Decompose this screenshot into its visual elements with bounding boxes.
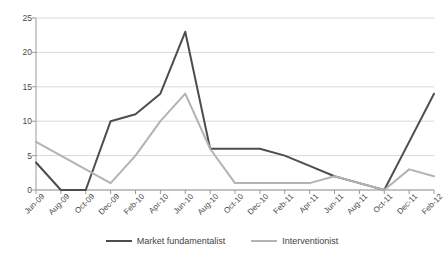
chart-legend: Market fundamentalistInterventionist bbox=[0, 232, 444, 250]
y-tick-label: 25 bbox=[2, 14, 32, 23]
y-tick-label: 15 bbox=[2, 82, 32, 91]
x-tick-label: Apr-10 bbox=[147, 192, 170, 215]
series-line bbox=[36, 94, 434, 190]
x-tick-label: Feb-10 bbox=[122, 192, 146, 216]
legend-item[interactable]: Interventionist bbox=[251, 236, 338, 246]
series-line bbox=[36, 32, 434, 190]
x-tick-label: Aug-10 bbox=[196, 192, 221, 217]
y-axis-labels: 0510152025 bbox=[0, 18, 32, 190]
x-tick-label: Dec-10 bbox=[246, 192, 271, 217]
x-tick-label: Aug-09 bbox=[47, 192, 72, 217]
legend-swatch-light bbox=[251, 240, 277, 242]
legend-label: Market fundamentalist bbox=[137, 236, 226, 246]
x-tick-label: Aug-11 bbox=[346, 192, 370, 216]
y-tick-label: 5 bbox=[2, 151, 32, 160]
legend-swatch-dark bbox=[106, 240, 132, 242]
x-tick-label: Feb-11 bbox=[271, 192, 295, 216]
y-tick-label: 20 bbox=[2, 48, 32, 57]
x-tick-label: Feb-12 bbox=[420, 192, 444, 216]
x-tick-label: Oct-09 bbox=[73, 192, 96, 215]
x-tick-label: Dec-09 bbox=[96, 192, 121, 217]
x-tick-label: Jun-09 bbox=[23, 192, 47, 216]
y-tick-label: 0 bbox=[2, 186, 32, 195]
series-lines bbox=[36, 18, 434, 190]
x-tick-label: Oct-10 bbox=[222, 192, 245, 215]
x-tick-label: Oct-11 bbox=[372, 192, 395, 215]
legend-item[interactable]: Market fundamentalist bbox=[106, 236, 226, 246]
legend-label: Interventionist bbox=[282, 236, 338, 246]
y-tick-label: 10 bbox=[2, 117, 32, 126]
plot-area bbox=[36, 18, 434, 190]
x-tick-label: Apr-11 bbox=[297, 192, 320, 215]
x-tick-label: Dec-11 bbox=[395, 192, 419, 216]
x-tick-label: Jun-10 bbox=[172, 192, 196, 216]
x-tick-label: Jun-11 bbox=[322, 192, 345, 215]
line-chart: 0510152025 Jun-09Aug-09Oct-09Dec-09Feb-1… bbox=[0, 0, 444, 259]
x-axis-labels: Jun-09Aug-09Oct-09Dec-09Feb-10Apr-10Jun-… bbox=[36, 190, 434, 234]
